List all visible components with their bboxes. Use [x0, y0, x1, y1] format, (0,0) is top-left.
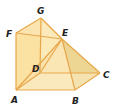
vertex-label-G: G: [37, 6, 44, 16]
vertex-label-E: E: [62, 28, 69, 38]
vertex-label-D: D: [32, 64, 40, 74]
vertex-label-A: A: [10, 95, 18, 105]
vertex-label-F: F: [6, 29, 13, 39]
solid-diagram: G F E D C A B: [0, 0, 117, 109]
vertex-label-B: B: [72, 96, 79, 106]
geometry-figure: G F E D C A B: [0, 0, 117, 109]
vertex-label-C: C: [103, 70, 110, 80]
